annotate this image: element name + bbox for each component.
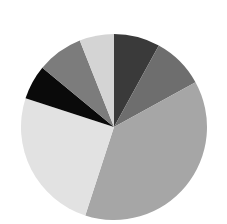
pie-chart bbox=[0, 0, 227, 224]
pie-chart-svg bbox=[0, 0, 227, 224]
